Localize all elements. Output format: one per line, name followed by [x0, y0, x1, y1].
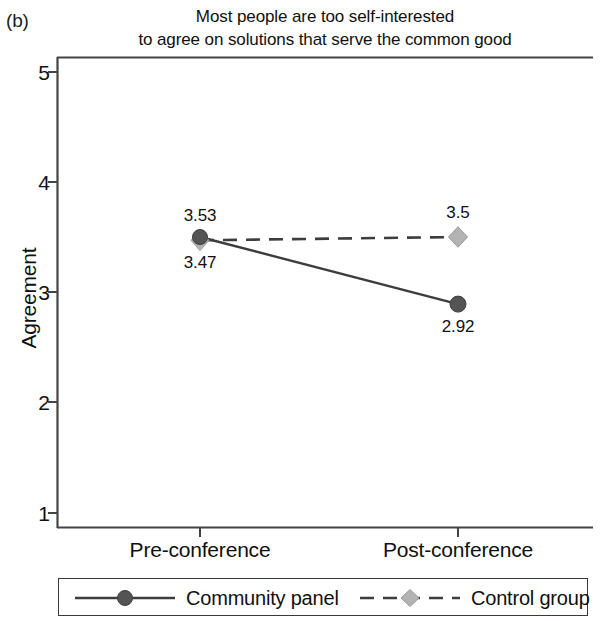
legend-item-community-panel: Community panel: [73, 585, 339, 611]
x-axis-ticks: [200, 528, 458, 537]
marker-community-panel-post: [450, 296, 466, 312]
marker-community-panel-pre: [193, 230, 208, 245]
series-line-control-group: [200, 237, 458, 240]
solid-line-circle-marker-icon: [73, 587, 177, 609]
legend-item-control-group: Control group: [358, 585, 590, 611]
figure-panel-b: (b) Most people are too self-interested …: [0, 0, 602, 621]
legend-label-community-panel: Community panel: [186, 586, 339, 610]
value-label-control-group-pre: 3.47: [155, 253, 245, 272]
value-label-community-panel-pre: 3.53: [155, 206, 245, 225]
legend: Community panel Control group: [58, 578, 588, 616]
plot-area: [0, 0, 602, 621]
marker-control-group-post: [449, 227, 468, 248]
value-label-control-group-post: 3.5: [413, 203, 503, 222]
legend-label-control-group: Control group: [471, 586, 590, 610]
value-label-community-panel-post: 2.92: [413, 317, 503, 336]
dashed-line-diamond-marker-icon: [358, 587, 462, 609]
y-axis-ticks: [48, 72, 57, 513]
